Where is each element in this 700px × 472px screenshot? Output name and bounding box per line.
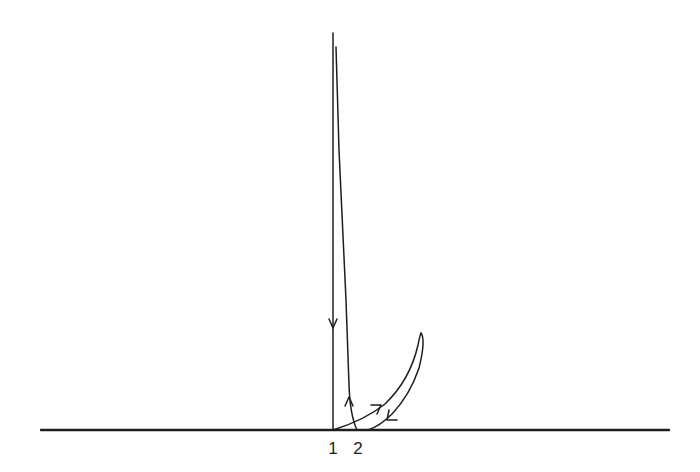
up-arrow-icon: [345, 397, 353, 406]
ascending-line: [336, 47, 357, 430]
point-1-label: 1: [328, 440, 337, 457]
loop-return-curve: [368, 333, 423, 430]
trajectory-diagram: [0, 0, 700, 472]
point-2-label: 2: [353, 440, 362, 457]
loop-outbound-curve: [333, 333, 421, 430]
